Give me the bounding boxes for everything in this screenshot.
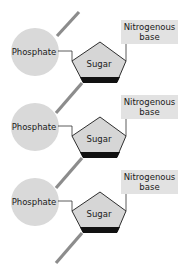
base-label-line1: Nitrogenous: [124, 172, 176, 182]
nucleotide-chain-diagram: Phosphate Sugar Nitrogenous base Phospha…: [0, 0, 184, 274]
backbone-segment-2-3: [56, 158, 82, 188]
sugar-bottom-edge: [80, 227, 120, 233]
phosphate-label: Phosphate: [12, 47, 57, 57]
backbone-tail-segment: [56, 233, 82, 263]
backbone-top-segment: [57, 12, 79, 36]
sugar-bottom-edge: [80, 152, 120, 158]
base-label-line2: base: [139, 107, 159, 117]
base-label-line2: base: [139, 32, 159, 42]
nucleotide-unit-3: Phosphate Sugar Nitrogenous base: [11, 170, 178, 233]
phosphate-sugar-connector: [58, 51, 72, 61]
phosphate-sugar-connector: [58, 126, 72, 136]
sugar-label: Sugar: [87, 209, 112, 219]
sugar-bottom-edge: [80, 77, 120, 83]
backbone-segment-1-2: [56, 83, 82, 113]
base-label-line2: base: [139, 182, 159, 192]
nucleotide-unit-2: Phosphate Sugar Nitrogenous base: [11, 95, 178, 158]
phosphate-sugar-connector: [58, 201, 72, 211]
nucleotide-unit-1: Phosphate Sugar Nitrogenous base: [11, 20, 178, 83]
sugar-label: Sugar: [87, 134, 112, 144]
base-label-line1: Nitrogenous: [124, 22, 176, 32]
phosphate-label: Phosphate: [12, 122, 57, 132]
sugar-label: Sugar: [87, 59, 112, 69]
base-label-line1: Nitrogenous: [124, 97, 176, 107]
phosphate-label: Phosphate: [12, 197, 57, 207]
